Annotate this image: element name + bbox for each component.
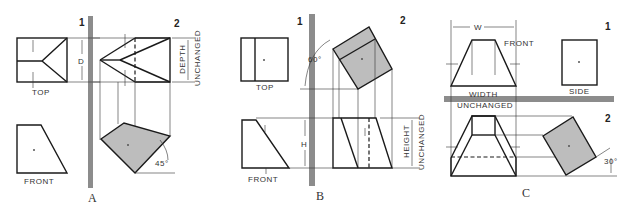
front-view-label: FRONT <box>248 175 278 184</box>
auxiliary-front-view <box>333 118 392 168</box>
plane-label-2: 2 <box>400 15 406 26</box>
top-view-label: TOP <box>256 83 274 92</box>
depth-dimension-label: D <box>78 57 84 66</box>
height-dimension-label: H <box>301 140 307 149</box>
plane-label-2: 2 <box>174 18 180 29</box>
auxiliary-view <box>446 116 520 176</box>
front-view-label: FRONT <box>24 177 54 186</box>
angle-label: 30° <box>604 157 618 166</box>
unchanged-label: UNCHANGED <box>193 30 202 86</box>
top-view <box>17 38 67 88</box>
folding-plane-a <box>88 16 93 188</box>
plane-label-1: 1 <box>79 17 85 28</box>
front-view-label: FRONT <box>504 39 534 48</box>
caption-b: B <box>316 189 324 203</box>
folding-plane-b <box>309 14 315 186</box>
auxiliary-views-diagram: 1 2 TOP D <box>0 0 635 211</box>
front-view <box>242 120 289 174</box>
depth-label: DEPTH <box>178 44 187 74</box>
front-view <box>17 125 67 173</box>
plane-label-1: 1 <box>297 16 303 27</box>
width-label: WIDTH <box>469 90 498 99</box>
top-view-label: TOP <box>32 88 50 97</box>
auxiliary-top-view <box>93 34 170 86</box>
plane-label-2: 2 <box>605 113 611 124</box>
caption-c: C <box>522 186 530 200</box>
side-view-label: SIDE <box>569 87 590 96</box>
panel-b: 1 2 TOP 60° FRONT <box>241 14 426 203</box>
unchanged-label: UNCHANGED <box>417 114 426 170</box>
panel-a: 1 2 TOP D <box>17 16 202 205</box>
side-view <box>562 40 597 85</box>
top-view <box>241 38 288 81</box>
auxiliary-shaded-view <box>333 27 392 89</box>
caption-a: A <box>88 191 97 205</box>
plane-label-1: 1 <box>605 21 611 32</box>
width-dimension-label: W <box>474 23 482 32</box>
panel-c: 1 2 W FRONT SIDE WIDTH UNCHANGED <box>444 20 618 200</box>
angle-label: 60° <box>308 55 322 64</box>
height-label: HEIGHT <box>402 125 411 158</box>
angle-label: 45° <box>155 159 169 168</box>
unchanged-label: UNCHANGED <box>457 101 513 110</box>
